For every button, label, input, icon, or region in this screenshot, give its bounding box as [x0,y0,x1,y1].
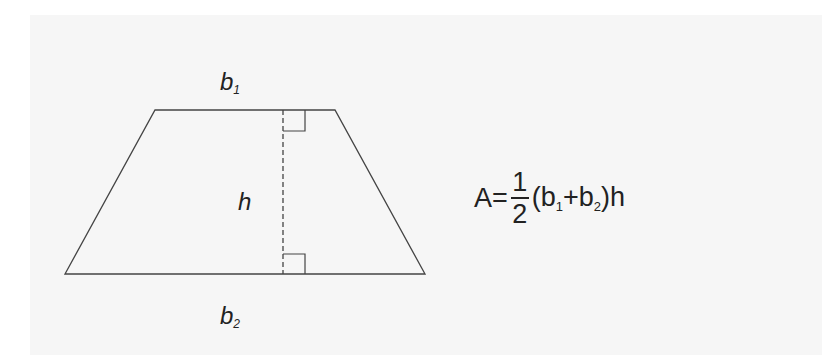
formula-rhs: (b1+b2)h [532,182,625,214]
bottom-base-label: b2 [220,304,240,330]
right-angle-top-marker [283,110,305,131]
one-half-fraction: 1 2 [511,168,529,228]
fraction-denominator: 2 [512,200,527,228]
top-base-label: b1 [220,70,240,96]
height-label: h [238,190,251,214]
trapezoid-figure [0,0,822,364]
formula-lhs: A= [474,183,508,214]
area-formula: A= 1 2 (b1+b2)h [474,168,625,228]
fraction-numerator: 1 [512,168,527,196]
right-angle-bottom-marker [283,254,305,274]
